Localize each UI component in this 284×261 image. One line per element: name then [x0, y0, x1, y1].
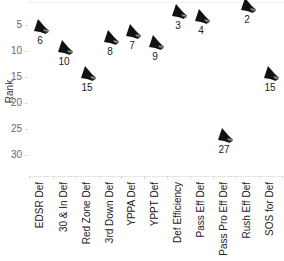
- x-category-label: YPPA Def: [126, 182, 137, 226]
- y-tick-mark: [25, 77, 28, 78]
- y-tick-label: 5: [0, 19, 22, 30]
- helmet-icon: [102, 29, 120, 47]
- helmet-icon: [124, 23, 142, 41]
- x-tick-mark: [29, 176, 30, 179]
- y-tick-mark: [25, 103, 28, 104]
- data-label: 3: [168, 20, 188, 31]
- x-tick-mark: [76, 176, 77, 179]
- x-category-label: 30 & In Def: [58, 182, 69, 232]
- data-label: 10: [54, 56, 74, 67]
- y-tick-mark: [25, 51, 28, 52]
- x-tick-mark: [121, 176, 122, 179]
- x-tick-mark: [190, 176, 191, 179]
- data-label: 15: [260, 82, 280, 93]
- x-tick-mark: [99, 176, 100, 179]
- x-tick-mark: [236, 176, 237, 179]
- y-tick-mark: [25, 25, 28, 26]
- x-category-label: Red Zone Def: [81, 182, 92, 244]
- data-label: 7: [122, 40, 142, 51]
- data-label: 8: [100, 46, 120, 57]
- helmet-icon: [262, 65, 280, 83]
- y-tick-label: 10: [0, 45, 22, 56]
- x-category-label: Pass Eff Def: [195, 182, 206, 237]
- x-category-label: Rush Eff Def: [241, 182, 252, 239]
- helmet-icon: [239, 0, 257, 15]
- y-tick-mark: [25, 129, 28, 130]
- x-category-label: YPPT Def: [149, 182, 160, 226]
- y-tick-label: 25: [0, 123, 22, 134]
- x-category-label: 3rd Down Def: [104, 182, 115, 243]
- x-axis-line: [28, 176, 284, 177]
- data-label: 27: [214, 144, 234, 155]
- helmet-icon: [147, 34, 165, 52]
- data-label: 2: [237, 14, 257, 25]
- y-tick-label: 30: [0, 149, 22, 160]
- helmet-icon: [32, 18, 50, 36]
- x-tick-mark: [259, 176, 260, 179]
- x-tick-mark: [144, 176, 145, 179]
- x-category-label: EDSR Def: [34, 182, 45, 228]
- x-tick-mark: [167, 176, 168, 179]
- data-label: 9: [145, 51, 165, 62]
- helmet-icon: [193, 8, 211, 26]
- y-tick-label: 15: [0, 71, 22, 82]
- data-label: 4: [191, 25, 211, 36]
- helmet-icon: [79, 65, 97, 83]
- y-tick-label: 20: [0, 97, 22, 108]
- helmet-icon: [216, 127, 234, 145]
- x-category-label: Pass Pro Eff Def: [218, 182, 229, 256]
- x-tick-mark: [213, 176, 214, 179]
- y-tick-mark: [25, 155, 28, 156]
- helmet-icon: [56, 39, 74, 57]
- data-label: 6: [30, 35, 50, 46]
- data-label: 15: [77, 82, 97, 93]
- x-tick-mark: [282, 176, 283, 179]
- helmet-icon: [170, 3, 188, 21]
- x-category-label: Def Efficiency: [172, 182, 183, 243]
- x-tick-mark: [53, 176, 54, 179]
- rank-chart: Rank 51015202530 610158793427215 EDSR De…: [0, 0, 284, 261]
- x-category-label: SOS for Def: [264, 182, 275, 236]
